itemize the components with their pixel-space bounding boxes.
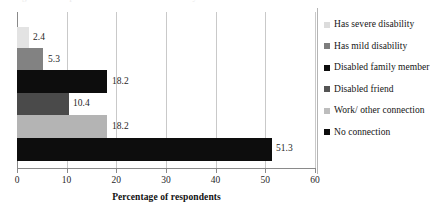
legend-swatch-icon — [324, 108, 330, 114]
legend-item-label: Disabled friend — [334, 84, 394, 95]
x-tick-label-10: 10 — [62, 175, 72, 185]
legend-item-has-mild-disability[interactable]: Has mild disability — [324, 36, 441, 58]
cropped-chart-title: Figure 4.1 Respondents' connection to di… — [14, 0, 314, 2]
legend-item-label: Has severe disability — [334, 19, 414, 30]
x-tick-label-30: 30 — [161, 175, 171, 185]
x-tick-30 — [166, 169, 167, 173]
bar-has-mild-disability[interactable] — [17, 48, 43, 70]
x-tick-40 — [216, 169, 217, 173]
legend-item-label: Has mild disability — [334, 41, 407, 52]
legend-item-label: Disabled family member — [334, 62, 430, 73]
bar-disabled-friend[interactable] — [17, 93, 69, 115]
bar-value-label-has-severe-disability: 2.4 — [33, 33, 45, 43]
legend-swatch-icon — [324, 129, 330, 135]
x-tick-label-0: 0 — [15, 175, 20, 185]
legend-item-work-other-connection[interactable]: Work/ other connection — [324, 100, 441, 122]
legend-item-label: No connection — [334, 127, 390, 138]
bar-work-other-connection[interactable] — [17, 115, 107, 138]
bar-disabled-family-member[interactable] — [17, 70, 107, 93]
x-tick-50 — [265, 169, 266, 173]
legend-item-disabled-friend[interactable]: Disabled friend — [324, 79, 441, 101]
x-tick-0 — [17, 169, 18, 173]
legend-item-disabled-family-member[interactable]: Disabled family member — [324, 57, 441, 79]
bar-value-label-no-connection: 51.3 — [276, 144, 293, 154]
x-tick-20 — [116, 169, 117, 173]
x-tick-label-40: 40 — [211, 175, 221, 185]
legend: Has severe disability Has mild disabilit… — [324, 14, 441, 143]
legend-divider — [317, 8, 318, 174]
bar-chart-figure: Figure 4.1 Respondents' connection to di… — [0, 0, 441, 219]
legend-swatch-icon — [324, 22, 330, 28]
legend-swatch-icon — [324, 65, 330, 71]
plot-area: 2.4 5.3 18.2 10.4 18.2 51.3 — [17, 12, 315, 169]
bar-value-label-work-other-connection: 18.2 — [112, 122, 129, 132]
x-axis-title: Percentage of respondents — [17, 192, 316, 203]
x-tick-60 — [315, 169, 316, 173]
bar-no-connection[interactable] — [17, 138, 272, 161]
bar-has-severe-disability[interactable] — [17, 27, 29, 48]
legend-item-no-connection[interactable]: No connection — [324, 122, 441, 144]
legend-item-has-severe-disability[interactable]: Has severe disability — [324, 14, 441, 36]
x-tick-label-20: 20 — [112, 175, 122, 185]
legend-swatch-icon — [324, 86, 330, 92]
x-tick-10 — [67, 169, 68, 173]
x-tick-label-50: 50 — [261, 175, 271, 185]
gridline-60 — [315, 12, 316, 169]
legend-swatch-icon — [324, 43, 330, 49]
bar-value-label-disabled-friend: 10.4 — [73, 99, 90, 109]
x-tick-label-60: 60 — [310, 175, 320, 185]
legend-item-label: Work/ other connection — [334, 105, 425, 116]
bar-value-label-has-mild-disability: 5.3 — [48, 55, 60, 65]
bar-value-label-disabled-family-member: 18.2 — [112, 77, 129, 87]
